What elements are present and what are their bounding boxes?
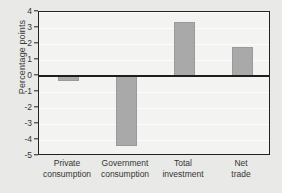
y-tick-mark bbox=[34, 10, 38, 11]
y-tick-label: -4 bbox=[10, 135, 32, 144]
y-tick-mark bbox=[34, 138, 38, 139]
y-tick-mark bbox=[34, 42, 38, 43]
y-tick-label: 0 bbox=[10, 71, 32, 80]
x-tick-label-government-consumption: Governmentconsumption bbox=[101, 158, 149, 179]
y-tick-mark bbox=[34, 58, 38, 59]
y-tick-label: -1 bbox=[10, 87, 32, 96]
y-tick-label: 1 bbox=[10, 55, 32, 64]
x-tick-label-line: investment bbox=[162, 169, 203, 180]
x-tick-label-line: consumption bbox=[101, 169, 149, 180]
x-tick-label-line: consumption bbox=[43, 169, 91, 180]
y-tick-label: 2 bbox=[10, 39, 32, 48]
y-tick-label: -2 bbox=[10, 103, 32, 112]
y-tick-label: -5 bbox=[10, 151, 32, 160]
y-tick-mark bbox=[34, 122, 38, 123]
x-tick-label-net-trade: Nettrade bbox=[231, 158, 250, 179]
y-tick-mark bbox=[34, 90, 38, 91]
y-tick-label: 3 bbox=[10, 23, 32, 32]
y-tick-label: 4 bbox=[10, 7, 32, 16]
bar-chart-figure: Percentage points 43210-1-2-3-4-5 Privat… bbox=[0, 0, 282, 193]
x-tick-label-private-consumption: Privateconsumption bbox=[43, 158, 91, 179]
x-tick-label-line: Government bbox=[101, 158, 149, 169]
y-tick-mark bbox=[34, 26, 38, 27]
y-tick-mark bbox=[34, 106, 38, 107]
y-tick-mark bbox=[34, 74, 38, 75]
x-axis-labels: PrivateconsumptionGovernmentconsumptionT… bbox=[38, 158, 270, 190]
y-tick-label: -3 bbox=[10, 119, 32, 128]
x-tick-label-line: Net bbox=[231, 158, 250, 169]
x-tick-label-line: Private bbox=[43, 158, 91, 169]
y-axis-ticks: 43210-1-2-3-4-5 bbox=[38, 11, 270, 155]
x-tick-label-total-investment: Totalinvestment bbox=[162, 158, 203, 179]
x-tick-label-line: Total bbox=[162, 158, 203, 169]
y-tick-mark bbox=[34, 154, 38, 155]
x-tick-label-line: trade bbox=[231, 169, 250, 180]
